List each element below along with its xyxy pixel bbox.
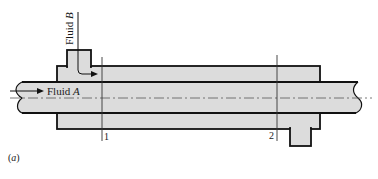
- figure-caption: (a): [8, 152, 20, 164]
- heat-exchanger-diagram: Fluid A Fluid B 1 2 (a): [0, 0, 378, 179]
- outlet-nozzle-joint: [291, 126, 310, 130]
- section-2-label: 2: [269, 130, 274, 141]
- inlet-nozzle-joint: [68, 64, 90, 68]
- outlet-nozzle: [290, 128, 311, 146]
- section-1-label: 1: [104, 131, 109, 142]
- fluid-b-label: Fluid B: [63, 12, 75, 45]
- fluid-a-label: Fluid A: [47, 85, 80, 97]
